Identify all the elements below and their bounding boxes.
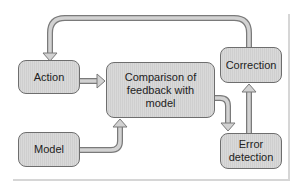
node-action: Action <box>18 60 80 94</box>
arrow-error-detection-to-correction <box>242 84 256 133</box>
node-comparison-line-2: feedback with <box>127 84 194 97</box>
arrow-action-to-comparison <box>80 74 105 88</box>
node-comparison-line-3: model <box>146 97 176 110</box>
node-model-label: Model <box>34 143 64 156</box>
arrow-comparison-to-error-detection <box>215 98 235 131</box>
node-action-label: Action <box>34 71 65 84</box>
node-model: Model <box>18 132 80 167</box>
node-comparison: Comparison of feedback with model <box>106 62 215 118</box>
arrow-correction-to-action <box>43 18 249 61</box>
node-error-detection-line-1: Error <box>239 138 263 151</box>
node-correction: Correction <box>220 47 282 83</box>
arrow-model-to-comparison <box>80 119 127 150</box>
node-error-detection: Error detection <box>220 133 282 169</box>
node-comparison-line-1: Comparison of <box>125 71 197 84</box>
node-correction-label: Correction <box>226 59 277 72</box>
node-error-detection-line-2: detection <box>229 151 274 164</box>
